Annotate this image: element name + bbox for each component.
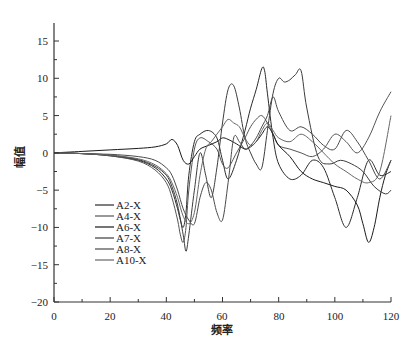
- y-tick-label: 0: [43, 147, 49, 159]
- y-tick-label: −15: [31, 259, 49, 271]
- x-tick-label: 60: [217, 310, 229, 322]
- legend-label-a10: A10-X: [116, 254, 147, 266]
- y-tick-labels: 15 10 5 0 −5 −10 −15 −20: [31, 35, 49, 308]
- series-line-a10-x: [54, 116, 391, 224]
- x-tick-label: 40: [161, 310, 173, 322]
- y-tick-label: 10: [37, 72, 49, 84]
- y-tick-label: 15: [37, 35, 49, 47]
- x-tick-label: 80: [274, 310, 286, 322]
- x-tick-label: 100: [327, 310, 344, 322]
- y-tick-label: 5: [43, 110, 49, 122]
- ticks-layer: [54, 41, 391, 302]
- y-tick-label: −10: [31, 221, 49, 233]
- legend: A2-X A4-X A6-X A7-X A8-X A10-X: [95, 199, 147, 266]
- series-line-a6-x: [54, 127, 391, 243]
- y-tick-label: −5: [36, 184, 48, 196]
- x-tick-label: 0: [51, 310, 57, 322]
- x-tick-label: 20: [105, 310, 117, 322]
- line-chart: 15 10 5 0 −5 −10 −15 −20 0 20 40 60 80 1…: [0, 0, 418, 351]
- x-axis-title: 频率: [211, 323, 233, 336]
- x-tick-labels: 0 20 40 60 80 100 120: [51, 310, 400, 322]
- x-tick-label: 120: [383, 310, 400, 322]
- y-axis-title: 幅值: [13, 146, 26, 168]
- series-line-a2-x: [54, 67, 391, 228]
- series-layer: [54, 67, 391, 251]
- y-tick-label: −20: [31, 296, 49, 308]
